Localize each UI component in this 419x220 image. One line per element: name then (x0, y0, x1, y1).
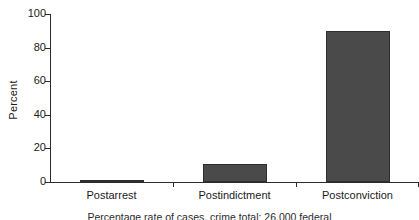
y-tick-label: 60 (34, 74, 46, 87)
y-tick-label: 100 (28, 7, 46, 20)
y-tick-label: 0 (40, 175, 46, 188)
bar-postconviction (326, 31, 390, 182)
bar-chart: Percent 020406080100 PostarrestPostindic… (0, 0, 419, 220)
x-label-postindictment: Postindictment (173, 188, 296, 202)
y-axis-line (50, 14, 51, 183)
x-axis-category-labels: PostarrestPostindictmentPostconviction (50, 188, 419, 204)
x-axis-line (50, 182, 419, 183)
figure-caption: Percentage rate of cases, crime total: 2… (0, 211, 419, 220)
bar-postindictment (203, 164, 267, 182)
x-label-postarrest: Postarrest (50, 188, 173, 202)
x-label-postconviction: Postconviction (296, 188, 419, 202)
y-axis-title: Percent (7, 10, 21, 190)
y-tick-label: 40 (34, 108, 46, 121)
plot-area: 020406080100 (50, 14, 419, 182)
bar-postarrest (80, 180, 144, 182)
y-tick-label: 20 (34, 141, 46, 154)
y-tick-label: 80 (34, 41, 46, 54)
x-tick-mark (296, 182, 297, 187)
x-tick-mark (173, 182, 174, 187)
